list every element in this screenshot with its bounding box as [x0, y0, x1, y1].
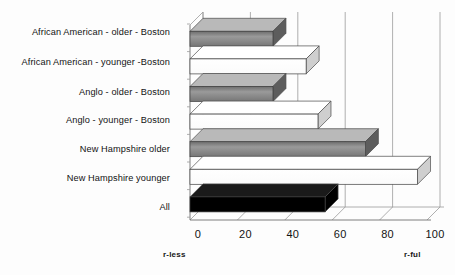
axis-end-label-right: r-ful: [404, 250, 421, 259]
x-axis-tick-labels: 020406080100: [150, 228, 450, 246]
category-label: Anglo - older - Boston: [79, 87, 170, 98]
bar: [190, 156, 431, 184]
bar: [190, 18, 286, 46]
x-tick-label: 100: [426, 228, 445, 240]
bar: [190, 101, 331, 129]
x-tick-label: 0: [195, 228, 201, 240]
bar: [190, 46, 319, 74]
category-label: New Hampshire older: [80, 144, 170, 155]
category-label: African American - younger -Boston: [22, 57, 170, 68]
x-tick-label: 20: [239, 228, 252, 240]
plot-area: [176, 8, 448, 228]
x-tick-label: 40: [286, 228, 299, 240]
bars-group: [190, 18, 431, 212]
bar-chart: African American - older - Boston Africa…: [0, 0, 455, 275]
x-tick-label: 60: [334, 228, 347, 240]
axis-end-labels: r-less r-ful: [0, 250, 455, 268]
category-label: Anglo - younger - Boston: [66, 115, 170, 126]
category-label: African American - older - Boston: [32, 27, 170, 38]
bar: [190, 74, 286, 102]
x-tick-label: 80: [381, 228, 394, 240]
category-label: New Hampshire younger: [67, 173, 170, 184]
category-label: All: [159, 202, 170, 213]
bar: [190, 129, 378, 157]
bar: [190, 184, 338, 212]
axis-end-label-left: r-less: [163, 250, 186, 259]
category-axis-labels: African American - older - Boston Africa…: [0, 0, 176, 230]
